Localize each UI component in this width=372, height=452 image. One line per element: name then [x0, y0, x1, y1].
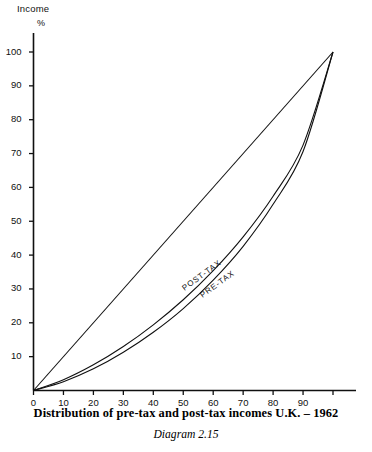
y-tick-label: 40 — [0, 249, 22, 260]
y-tick-label: 10 — [0, 350, 22, 361]
y-tick-label: 20 — [0, 316, 22, 327]
series-paths — [34, 52, 334, 391]
figure-caption: Distribution of pre-tax and post-tax inc… — [0, 406, 372, 421]
y-tick-label: 90 — [0, 79, 22, 90]
y-tick-label: 60 — [0, 181, 22, 192]
y-tick-label: 30 — [0, 282, 22, 293]
plot-area — [0, 0, 372, 452]
y-tick-label: 80 — [0, 113, 22, 124]
y-tick-label: 100 — [0, 46, 22, 57]
y-tick-label: 50 — [0, 215, 22, 226]
y-tick-label: 70 — [0, 147, 22, 158]
figure-number: Diagram 2.15 — [0, 428, 372, 441]
series-line-line-of-equality — [34, 52, 334, 391]
lorenz-curve-figure: Income % 102030405060708090100 010203040… — [0, 0, 372, 452]
